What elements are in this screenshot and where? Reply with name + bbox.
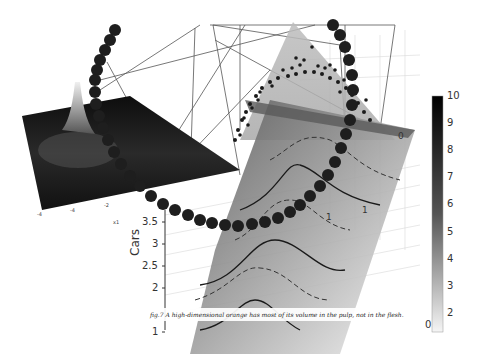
colorbar-tick: 8 — [447, 144, 453, 155]
y-tick: 3.5 — [142, 217, 158, 227]
axis-tick: 0 — [425, 320, 431, 330]
axis-tick: 1 — [362, 205, 368, 215]
figure-collage: -4 -4 -2 x1 Cars 3.5 3 2.5 2 1 0 0 1 1 1… — [0, 0, 480, 354]
colorbar-tick: 3 — [447, 280, 453, 291]
y-tick: 3 — [152, 239, 158, 249]
colorbar-tick: 7 — [447, 171, 453, 182]
figure-caption: fig.7 A high-dimensional orange has most… — [142, 308, 412, 321]
axis-tick: 1 — [326, 212, 332, 222]
y-tick: 1 — [152, 327, 158, 337]
y-axis-label: Cars — [128, 229, 142, 256]
y-tick: 2.5 — [142, 261, 158, 271]
axis-tick: 0 — [398, 131, 404, 141]
colorbar-tick: 6 — [447, 198, 453, 209]
x-tick: -4 — [70, 207, 75, 213]
x-tick: -4 — [37, 211, 42, 217]
plot-canvas — [0, 0, 480, 354]
colorbar-tick: 2 — [447, 307, 453, 318]
colorbar — [432, 96, 443, 332]
x-tick: -2 — [104, 202, 109, 208]
colorbar-tick: 9 — [447, 117, 453, 128]
y-tick: 2 — [152, 283, 158, 293]
x-axis-label: x1 — [113, 219, 119, 225]
colorbar-tick: 4 — [447, 253, 453, 264]
colorbar-tick: 5 — [447, 226, 453, 237]
colorbar-tick: 10 — [447, 90, 460, 101]
